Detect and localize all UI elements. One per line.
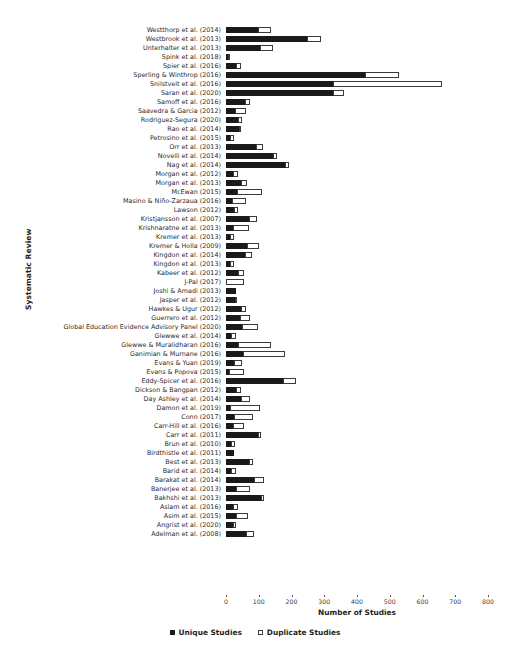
category-label: Krishnaratne et al. (2013) xyxy=(38,225,226,232)
category-label: Saran et al. (2020) xyxy=(38,90,226,97)
bar-segment-unique xyxy=(226,252,246,258)
x-axis-tick-label: 200 xyxy=(286,598,298,605)
category-label: Eddy-Spicer et al. (2016) xyxy=(38,378,226,385)
category-label: Westbrook et al. (2013) xyxy=(38,36,226,43)
bar-segment-unique xyxy=(226,315,241,321)
bar-track xyxy=(226,233,498,242)
bar-track xyxy=(226,206,498,215)
category-label: Carr et al. (2011) xyxy=(38,432,226,439)
bar-segment-unique xyxy=(226,144,256,150)
bar-segment-duplicate xyxy=(233,171,238,177)
category-label: Ganimian & Murnane (2016) xyxy=(38,351,226,358)
bar-track xyxy=(226,71,498,80)
category-label: Jasper et al. (2012) xyxy=(38,297,226,304)
category-label: Evans & Yuan (2019) xyxy=(38,360,226,367)
chart-bar-row: Masino & Niño-Zarzaua (2016) xyxy=(38,197,498,206)
chart-bar-row: Westbrook et al. (2013) xyxy=(38,35,498,44)
chart-bar-row: Kremer & Holla (2009) xyxy=(38,242,498,251)
chart-bar-row: Banerjee et al. (2013) xyxy=(38,485,498,494)
bar-segment-duplicate xyxy=(234,207,238,213)
chart-bar-row: Sperling & Winthrop (2016) xyxy=(38,71,498,80)
chart-bar-row: Brun et al. (2010) xyxy=(38,440,498,449)
bar-segment-duplicate xyxy=(249,459,254,465)
x-axis-tick-label: 800 xyxy=(482,598,494,605)
bar-segment-duplicate xyxy=(240,315,249,321)
x-axis-tick-label: 600 xyxy=(417,598,429,605)
chart-figure: Systematic Review Westthorp et al. (2014… xyxy=(0,0,510,653)
bar-track xyxy=(226,215,498,224)
category-label: Rao et al. (2014) xyxy=(38,126,226,133)
bar-segment-unique xyxy=(226,342,238,348)
chart-bar-row: Kabeer et al. (2012) xyxy=(38,269,498,278)
bar-segment-unique xyxy=(226,180,242,186)
bar-segment-duplicate xyxy=(260,45,273,51)
bar-track xyxy=(226,35,498,44)
chart-bar-row: Krishnaratne et al. (2013) xyxy=(38,224,498,233)
bar-track xyxy=(226,377,498,386)
chart-bar-row: Lawson (2012) xyxy=(38,206,498,215)
bar-track xyxy=(226,350,498,359)
x-axis-tick-label: 700 xyxy=(449,598,461,605)
bar-segment-unique xyxy=(226,351,243,357)
bar-segment-unique xyxy=(226,72,365,78)
bar-segment-duplicate xyxy=(233,423,244,429)
bar-track xyxy=(226,431,498,440)
chart-bar-row: Rodriguez-Segura (2020) xyxy=(38,116,498,125)
bar-segment-duplicate xyxy=(232,198,246,204)
chart-bar-row: Samoff et al. (2016) xyxy=(38,98,498,107)
bar-segment-duplicate xyxy=(238,270,244,276)
bar-track xyxy=(226,476,498,485)
bar-segment-duplicate xyxy=(283,378,296,384)
bar-segment-duplicate xyxy=(236,387,241,393)
bar-segment-duplicate xyxy=(236,486,250,492)
bar-segment-duplicate xyxy=(231,441,236,447)
bar-segment-duplicate xyxy=(258,432,261,438)
bar-track xyxy=(226,521,498,530)
bar-track xyxy=(226,98,498,107)
bar-track xyxy=(226,413,498,422)
plot-area: Westthorp et al. (2014)Westbrook et al. … xyxy=(38,26,498,592)
bar-track xyxy=(226,305,498,314)
chart-bar-row: Conn (2017) xyxy=(38,413,498,422)
bar-segment-duplicate xyxy=(230,234,235,240)
chart-bar-row: J-Pal (2017) xyxy=(38,278,498,287)
bar-segment-duplicate xyxy=(241,396,250,402)
bar-segment-unique xyxy=(226,495,261,501)
bar-track xyxy=(226,368,498,377)
x-axis: 0100200300400500600700800 xyxy=(226,595,488,596)
bar-segment-duplicate xyxy=(333,90,345,96)
bar-track xyxy=(226,269,498,278)
bar-segment-duplicate xyxy=(245,99,250,105)
category-label: Rodriguez-Segura (2020) xyxy=(38,117,226,124)
bar-segment-duplicate xyxy=(229,369,244,375)
category-label: J-Pal (2017) xyxy=(38,279,226,286)
category-label: Glewwe et al. (2014) xyxy=(38,333,226,340)
bar-track xyxy=(226,116,498,125)
category-label: Carr-Hill et al. (2016) xyxy=(38,423,226,430)
bar-segment-unique xyxy=(226,450,234,456)
chart-bar-row: Evans & Yuan (2019) xyxy=(38,359,498,368)
bar-segment-duplicate xyxy=(307,36,320,42)
category-label: Aslam et al. (2016) xyxy=(38,504,226,511)
category-label: Kingdon et al. (2014) xyxy=(38,252,226,259)
category-label: Kristjansson et al. (2007) xyxy=(38,216,226,223)
category-label: Kremer et al. (2013) xyxy=(38,234,226,241)
bar-segment-duplicate xyxy=(233,504,239,510)
category-label: McEwan (2015) xyxy=(38,189,226,196)
bar-segment-unique xyxy=(226,81,333,87)
x-axis-tick-label: 0 xyxy=(224,598,228,605)
bar-segment-duplicate xyxy=(230,261,234,267)
bar-track xyxy=(226,296,498,305)
bar-track xyxy=(226,449,498,458)
bar-segment-duplicate xyxy=(226,279,244,285)
chart-bar-row: Ganimian & Murnane (2016) xyxy=(38,350,498,359)
chart-bar-row: Carr et al. (2011) xyxy=(38,431,498,440)
bar-track xyxy=(226,26,498,35)
x-axis-tick xyxy=(259,595,260,597)
chart-bar-row: Morgan et al. (2012) xyxy=(38,170,498,179)
category-label: Joshi & Amadi (2013) xyxy=(38,288,226,295)
bar-segment-duplicate xyxy=(230,405,260,411)
chart-bar-row: Nag et al. (2014) xyxy=(38,161,498,170)
legend-item-unique-studies: Unique Studies xyxy=(170,628,242,637)
chart-bar-row: Joshi & Amadi (2013) xyxy=(38,287,498,296)
